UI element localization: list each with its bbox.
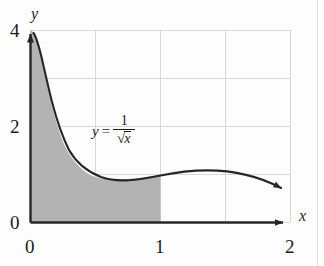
y-tick-label-4: 4	[10, 21, 20, 40]
equation-numerator: 1	[119, 114, 130, 129]
x-tick-label-0: 0	[25, 237, 35, 256]
equation-fraction: 1 √ x	[113, 114, 135, 147]
area-under-curve-figure: 4 2 0 0 1 2 y x y = 1 √ x	[0, 0, 324, 266]
x-tick-label-1: 1	[155, 237, 165, 256]
radicand: x	[124, 131, 131, 147]
x-tick-label-2: 2	[285, 237, 295, 256]
x-axis-label: x	[299, 208, 306, 224]
equation-equals: =	[102, 124, 110, 139]
y-tick-label-0: 0	[10, 213, 20, 232]
equation-denominator: √ x	[115, 130, 133, 147]
plot-canvas	[0, 0, 324, 266]
radical-group: √ x	[117, 131, 131, 147]
y-axis-label: y	[31, 6, 38, 22]
y-tick-label-2: 2	[10, 117, 20, 136]
equation-lhs: y	[92, 124, 99, 139]
equation-annotation: y = 1 √ x	[92, 115, 135, 148]
